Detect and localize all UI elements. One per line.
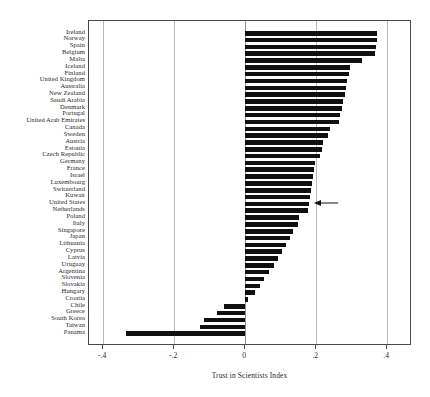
bar (245, 92, 344, 97)
bar (245, 208, 307, 213)
bar (245, 133, 327, 138)
bar-row (89, 234, 410, 241)
x-tick-mark (173, 345, 174, 349)
bar-row (89, 98, 410, 105)
bar (245, 195, 310, 200)
bar-row (89, 36, 410, 43)
bar (224, 304, 245, 309)
chart-figure: IrelandNorwaySpainBelgiumMaltaIcelandFin… (0, 0, 430, 397)
bar-row (89, 146, 410, 153)
bar-row (89, 152, 410, 159)
bar (245, 154, 320, 159)
x-tick-mark (244, 345, 245, 349)
bar (204, 318, 245, 323)
bar-row (89, 330, 410, 337)
bar-row (89, 30, 410, 37)
bar (126, 331, 245, 336)
plot-area (88, 20, 411, 345)
bar-row (89, 255, 410, 262)
bar (245, 79, 347, 84)
bar (245, 277, 264, 282)
bar-row (89, 193, 410, 200)
bar (245, 120, 339, 125)
x-tick-mark (315, 345, 316, 349)
x-tick-mark (102, 345, 103, 349)
bar (245, 72, 349, 77)
bar (245, 284, 260, 289)
bar (245, 140, 323, 145)
bar-row (89, 118, 410, 125)
bar (245, 256, 278, 261)
bar (245, 270, 268, 275)
bar-row (89, 303, 410, 310)
bar-row (89, 262, 410, 269)
bar-row (89, 275, 410, 282)
bar-row (89, 111, 410, 118)
bar-row (89, 200, 410, 207)
bar-row (89, 125, 410, 132)
bar (245, 86, 346, 91)
bar-row (89, 323, 410, 330)
bar-row (89, 43, 410, 50)
bar-row (89, 64, 410, 71)
bar-row (89, 166, 410, 173)
bar (245, 174, 313, 179)
bar (245, 31, 377, 36)
bar-row (89, 173, 410, 180)
bar (200, 325, 245, 330)
bar (245, 106, 342, 111)
bar (245, 38, 376, 43)
bar (245, 181, 312, 186)
bar-row (89, 214, 410, 221)
bar-row (89, 207, 410, 214)
bar-row (89, 269, 410, 276)
bar (245, 222, 298, 227)
bar-row (89, 71, 410, 78)
bar (245, 147, 322, 152)
bar (245, 65, 350, 70)
bar-row (89, 296, 410, 303)
x-tick-label: .4 (383, 351, 389, 361)
bar (245, 297, 248, 302)
bar (245, 58, 362, 63)
bar-row (89, 159, 410, 166)
bar (245, 113, 340, 118)
x-tick-label: -.4 (98, 351, 106, 361)
bar-row (89, 221, 410, 228)
bar-row (89, 132, 410, 139)
bar-row (89, 139, 410, 146)
bar-row (89, 180, 410, 187)
bar-row (89, 84, 410, 91)
bar-row (89, 57, 410, 64)
bar-row (89, 241, 410, 248)
bar-row (89, 228, 410, 235)
bar (245, 236, 290, 241)
bar-row (89, 105, 410, 112)
x-tick-label: .2 (312, 351, 318, 361)
bar (245, 127, 329, 132)
bar (245, 51, 375, 56)
x-tick-mark (386, 345, 387, 349)
bars-layer (89, 21, 410, 344)
bar-row (89, 187, 410, 194)
bar (245, 202, 309, 207)
bar (245, 188, 311, 193)
y-axis-category-labels: IrelandNorwaySpainBelgiumMaltaIcelandFin… (0, 20, 85, 345)
bar (245, 263, 273, 268)
bar (245, 215, 299, 220)
bar-row (89, 50, 410, 57)
x-axis-title: Trust in Scientists Index (88, 371, 411, 380)
bar (245, 167, 314, 172)
x-tick-label: 0 (242, 351, 246, 361)
bar (217, 311, 245, 316)
bar-row (89, 77, 410, 84)
bar (245, 249, 282, 254)
x-tick-label: -.2 (169, 351, 177, 361)
bar-row (89, 282, 410, 289)
y-axis-label: Panama (0, 329, 85, 336)
bar (245, 229, 293, 234)
bar (245, 161, 315, 166)
bar (245, 243, 286, 248)
bar-row (89, 289, 410, 296)
bar-row (89, 248, 410, 255)
